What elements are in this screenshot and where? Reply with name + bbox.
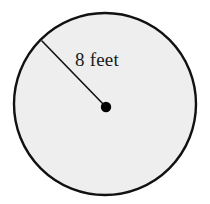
geometry-figure: 8 feet <box>0 0 210 204</box>
radius-label: 8 feet <box>75 49 119 70</box>
center-point-dot <box>101 102 111 112</box>
circle-diagram-svg: 8 feet <box>0 0 210 204</box>
